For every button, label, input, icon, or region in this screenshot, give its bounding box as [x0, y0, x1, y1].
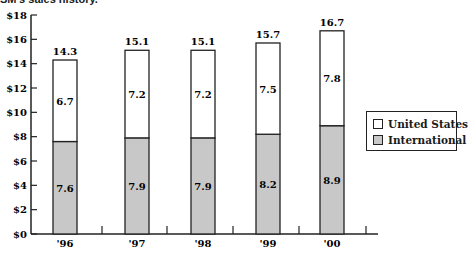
- value-label: 7.2: [128, 89, 145, 100]
- value-label: 8.9: [323, 175, 340, 186]
- total-label: 15.7: [256, 29, 280, 40]
- x-tick-label: '98: [195, 238, 212, 249]
- y-tick-label: $8: [13, 131, 27, 142]
- value-label: 7.9: [194, 181, 211, 192]
- legend: United States International: [366, 111, 457, 151]
- value-label: 7.2: [194, 89, 211, 100]
- y-tick-label: $2: [13, 204, 27, 215]
- y-tick-label: $4: [13, 180, 27, 191]
- y-tick-label: $18: [6, 10, 27, 21]
- legend-label: International: [388, 134, 466, 146]
- x-tick-label: '97: [129, 238, 146, 249]
- value-label: 7.9: [128, 181, 145, 192]
- value-label: 6.7: [56, 96, 73, 107]
- y-tick-label: $16: [6, 34, 27, 45]
- legend-swatch-gray-icon: [373, 135, 383, 145]
- y-tick-label: $10: [6, 107, 27, 118]
- total-label: 15.1: [191, 36, 215, 47]
- total-label: 15.1: [125, 36, 149, 47]
- legend-item-international: International: [373, 134, 466, 146]
- y-tick-label: $14: [6, 58, 27, 69]
- x-tick-label: '96: [57, 238, 74, 249]
- y-tick-label: $12: [6, 83, 27, 94]
- legend-label: United States: [388, 118, 468, 130]
- legend-swatch-white-icon: [373, 119, 383, 129]
- total-label: 14.3: [53, 46, 77, 57]
- total-label: 16.7: [320, 17, 344, 28]
- value-label: 8.2: [259, 179, 276, 190]
- value-label: 7.8: [323, 73, 340, 84]
- legend-item-united-states: United States: [373, 118, 468, 130]
- x-tick-label: '99: [260, 238, 277, 249]
- value-label: 7.5: [259, 84, 276, 95]
- y-tick-label: $6: [13, 156, 27, 167]
- value-label: 7.6: [56, 183, 73, 194]
- x-tick-label: '00: [324, 238, 341, 249]
- y-tick-label: $0: [13, 229, 27, 240]
